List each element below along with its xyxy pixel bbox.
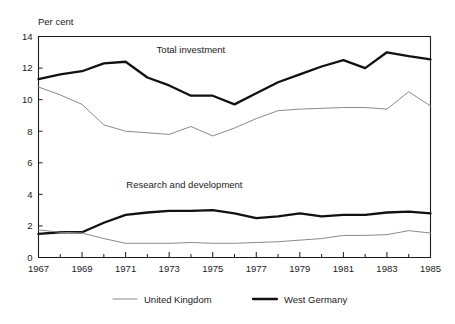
y-tick-label: 6 — [27, 157, 32, 168]
x-tick-label: 1973 — [159, 263, 180, 274]
chart-annotation-0: Total investment — [157, 44, 226, 55]
x-axis-ticks: 1967196919711973197519771979198119831985 — [28, 252, 441, 274]
series-line-3 — [39, 230, 431, 243]
plot-border — [39, 37, 431, 258]
x-tick-label: 1981 — [333, 263, 354, 274]
x-tick-label: 1969 — [71, 263, 92, 274]
legend-label-1: West Germany — [284, 294, 347, 305]
y-tick-label: 8 — [27, 126, 32, 137]
chart-legend: United KingdomWest Germany — [113, 294, 347, 305]
y-tick-label: 12 — [22, 62, 33, 73]
x-tick-label: 1967 — [28, 263, 49, 274]
y-tick-label: 2 — [27, 220, 32, 231]
series-layer — [39, 52, 431, 243]
x-tick-label: 1975 — [202, 263, 223, 274]
y-tick-label: 14 — [22, 31, 33, 42]
legend-label-0: United Kingdom — [144, 294, 212, 305]
annotation-layer: Total investmentResearch and development — [126, 44, 243, 191]
series-line-1 — [39, 87, 431, 136]
plot-frame — [39, 37, 431, 258]
x-tick-label: 1983 — [376, 263, 397, 274]
chart-container: 02468101214 1967196919711973197519771979… — [0, 0, 455, 324]
x-tick-label: 1977 — [246, 263, 267, 274]
x-tick-label: 1985 — [420, 263, 441, 274]
line-chart: 02468101214 1967196919711973197519771979… — [0, 0, 455, 324]
series-line-0 — [39, 52, 431, 104]
x-tick-label: 1971 — [115, 263, 136, 274]
y-axis-ticks: 02468101214 — [22, 31, 43, 263]
chart-annotation-1: Research and development — [126, 179, 243, 190]
y-tick-label: 10 — [22, 94, 33, 105]
y-axis-label: Per cent — [38, 16, 74, 27]
y-tick-label: 4 — [27, 189, 32, 200]
series-line-2 — [39, 210, 431, 234]
y-tick-label: 0 — [27, 252, 32, 263]
x-tick-label: 1979 — [289, 263, 310, 274]
